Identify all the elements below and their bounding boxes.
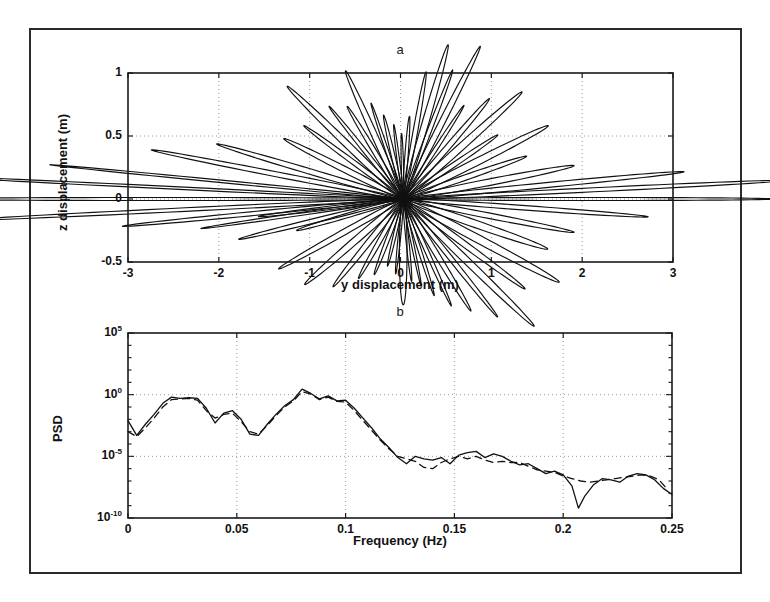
panel-b-title: b	[370, 304, 430, 319]
tick-label: 0	[72, 191, 122, 205]
panel-b-y-axis-label: PSD	[50, 369, 65, 489]
tick-label: 10-5	[66, 447, 122, 462]
tick-label: 0.2	[533, 522, 593, 536]
panel-a-title: a	[370, 42, 430, 57]
tick-label: 0.05	[207, 522, 267, 536]
tick-label: -1	[285, 266, 335, 280]
tick-label: 10-10	[66, 509, 122, 524]
tick-label: 1	[466, 266, 516, 280]
panel-a-y-axis-label: z displacement (m)	[55, 73, 70, 273]
tick-label: 0.1	[316, 522, 376, 536]
tick-label: 105	[66, 324, 122, 339]
figure-page: a b z displacement (m) y displacement (m…	[0, 0, 770, 602]
tick-label: 0.25	[642, 522, 702, 536]
tick-label: 0.15	[424, 522, 484, 536]
tick-label: -0.5	[72, 254, 122, 268]
tick-label: 0	[376, 266, 426, 280]
tick-label: 100	[66, 386, 122, 401]
tick-label: 2	[557, 266, 607, 280]
tick-label: 3	[648, 266, 698, 280]
tick-label: 1	[72, 65, 122, 79]
tick-label: 0.5	[72, 128, 122, 142]
tick-label: -2	[194, 266, 244, 280]
tick-label: -3	[103, 266, 153, 280]
tick-label: 0	[98, 522, 158, 536]
